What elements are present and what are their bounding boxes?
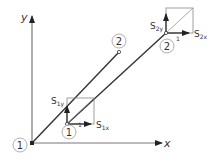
svg-text:1: 1 bbox=[78, 121, 82, 128]
node-1-point bbox=[30, 141, 34, 145]
node-2p-point bbox=[164, 31, 167, 34]
s1y-label: S1y bbox=[51, 96, 65, 108]
s2y-label: S2y bbox=[150, 21, 164, 33]
svg-text:1: 1 bbox=[66, 127, 72, 138]
node-2p-label: 2 1 bbox=[160, 35, 180, 53]
x-axis-label: x bbox=[163, 137, 171, 150]
displacement-diagram: y x 1 2 1 1 2 1 S1y S1x S2y S2x bbox=[0, 0, 221, 163]
node-1-label: 1 bbox=[13, 138, 27, 152]
svg-text:2: 2 bbox=[164, 41, 170, 52]
svg-text:1: 1 bbox=[17, 140, 23, 151]
s1x-label: S1x bbox=[96, 120, 110, 131]
svg-text:1: 1 bbox=[176, 35, 180, 42]
displacement-box-2-diagonal bbox=[166, 8, 193, 33]
node-2-point bbox=[117, 50, 120, 53]
s2x-label: S2x bbox=[194, 29, 208, 40]
y-axis-label: y bbox=[20, 11, 28, 24]
svg-text:2: 2 bbox=[116, 36, 122, 47]
node-2-label: 2 bbox=[112, 34, 126, 48]
